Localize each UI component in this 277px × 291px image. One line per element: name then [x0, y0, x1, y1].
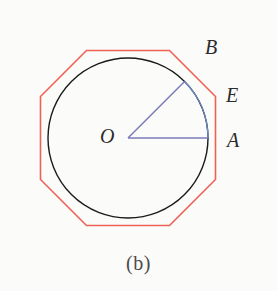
- point-label-e: E: [226, 85, 238, 105]
- point-label-o: O: [100, 126, 114, 146]
- figure-container: O B E A (b): [0, 0, 277, 291]
- figure-caption: (b): [0, 252, 277, 275]
- arc-ab: [185, 81, 208, 138]
- point-label-a: A: [227, 130, 239, 150]
- radius-ob: [128, 81, 185, 138]
- point-label-b: B: [205, 37, 217, 57]
